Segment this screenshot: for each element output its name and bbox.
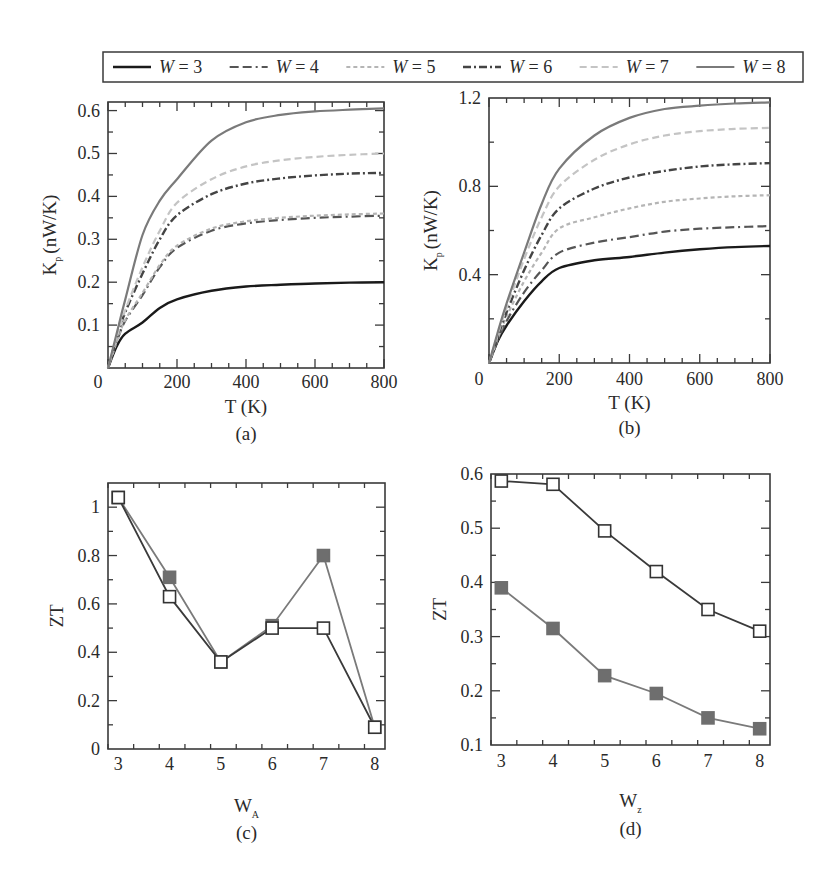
panel-caption: (b): [618, 417, 640, 439]
y-axis-label-main: K: [420, 257, 441, 271]
x-tick-label: 5: [216, 754, 225, 774]
plot-frame: [108, 102, 384, 368]
filled-square-marker: [754, 723, 766, 735]
curve-w=3: [108, 282, 384, 368]
y-tick-label: 0.4: [459, 265, 482, 285]
y-tick-label: 1: [91, 497, 100, 517]
x-tick-label: 0: [94, 372, 103, 392]
y-tick-label: 0.1: [461, 735, 484, 755]
curve-w=7: [489, 128, 770, 363]
y-tick-label: 0.4: [461, 572, 484, 592]
y-tick-label: 0: [91, 739, 100, 759]
filled-square-marker: [702, 712, 714, 724]
y-tick-label: 0.8: [459, 176, 482, 196]
curve-w=8: [489, 102, 770, 363]
open-square-marker: [266, 622, 278, 634]
x-tick-label: 400: [233, 372, 260, 392]
y-tick-label: 0.2: [461, 681, 484, 701]
y-axis-label-main: K: [39, 261, 60, 275]
y-axis-label-unit: (nW/K): [420, 190, 442, 249]
y-tick-label: 0.2: [78, 691, 101, 711]
x-tick-label: 5: [600, 751, 609, 771]
open-square-marker: [702, 604, 714, 616]
x-tick-label: 8: [755, 751, 764, 771]
x-axis-label: WA: [234, 795, 260, 820]
x-tick-label: 3: [497, 751, 506, 771]
y-axis-label-unit: (nW/K): [39, 195, 61, 254]
y-axis-label: ZT: [46, 604, 67, 628]
y-tick-label: 0.6: [78, 594, 101, 614]
y-tick-label: 0.8: [78, 546, 101, 566]
legend-label-value: = 4: [291, 57, 319, 77]
open-square-marker: [112, 492, 124, 504]
panel-caption: (a): [235, 423, 256, 445]
curve-w=8: [108, 108, 384, 368]
y-axis-label: Kp(nW/K): [39, 195, 63, 276]
legend-label: W = 7: [626, 57, 669, 77]
open-square-marker: [317, 622, 329, 634]
panel-caption: (c): [236, 822, 257, 844]
legend-label-value: = 7: [641, 57, 669, 77]
x-axis-label-sub: z: [637, 804, 642, 815]
curve-w=3: [489, 246, 770, 363]
legend-label-value: = 8: [757, 57, 785, 77]
y-tick-label: 0.3: [461, 627, 484, 647]
x-tick-label: 6: [652, 751, 661, 771]
open-square-marker: [495, 475, 507, 487]
open-square-marker: [650, 566, 662, 578]
open-square-marker: [369, 721, 381, 733]
x-tick-label: 4: [165, 754, 174, 774]
y-tick-label: 0.5: [461, 518, 484, 538]
figure: W = 3W = 4W = 5W = 6W = 7W = 8 020040060…: [0, 0, 815, 878]
y-tick-label: 0.3: [78, 229, 101, 249]
panels: 02004006008000.10.20.30.40.50.6T (K)Kp(n…: [39, 88, 784, 844]
filled-square-marker: [599, 670, 611, 682]
curve-w=6: [489, 163, 770, 363]
x-axis-label: T (K): [225, 396, 267, 418]
filled-series-line: [501, 588, 759, 729]
x-axis-label-main: W: [234, 795, 252, 816]
legend-label-value: = 6: [524, 57, 552, 77]
plot-frame: [108, 483, 385, 749]
x-tick-label: 7: [319, 754, 328, 774]
y-tick-label: 0.6: [78, 101, 101, 121]
legend-label: W = 3: [159, 57, 202, 77]
filled-square-marker: [495, 582, 507, 594]
curve-w=6: [108, 173, 384, 368]
x-tick-label: 600: [686, 369, 713, 389]
legend: W = 3W = 4W = 5W = 6W = 7W = 8: [103, 52, 803, 82]
x-tick-label: 8: [370, 754, 379, 774]
x-tick-label: 800: [371, 372, 398, 392]
y-tick-label: 0.5: [78, 143, 101, 163]
y-tick-label: 0.6: [461, 464, 484, 484]
y-axis-label: Kp(nW/K): [420, 190, 444, 271]
x-tick-label: 600: [302, 372, 329, 392]
legend-label-value: = 3: [174, 57, 202, 77]
curve-w=5: [489, 195, 770, 363]
legend-label: W = 6: [509, 57, 552, 77]
open-square-marker: [164, 591, 176, 603]
y-tick-label: 0.1: [78, 315, 101, 335]
x-tick-label: 0: [475, 369, 484, 389]
open-square-marker: [215, 656, 227, 668]
y-tick-label: 0.2: [78, 272, 101, 292]
legend-label: W = 5: [392, 57, 435, 77]
plot-frame: [491, 474, 770, 745]
x-axis-label-main: W: [619, 790, 637, 811]
x-tick-label: 4: [549, 751, 558, 771]
x-tick-label: 200: [164, 372, 191, 392]
y-tick-label: 1.2: [459, 88, 482, 108]
curve-w=4: [108, 216, 384, 368]
chart-panel-c: 34567800.20.40.60.81WAZT(c): [46, 483, 385, 844]
curve-w=5: [108, 214, 384, 369]
filled-square-marker: [164, 571, 176, 583]
x-tick-label: 800: [757, 369, 784, 389]
chart-panel-d: 3456780.10.20.30.40.50.6WzZT(d): [429, 464, 770, 840]
x-tick-label: 6: [268, 754, 277, 774]
x-tick-label: 400: [616, 369, 643, 389]
open-square-marker: [599, 525, 611, 537]
open-square-marker: [547, 478, 559, 490]
y-axis-label-sub: p: [433, 252, 444, 257]
open-square-marker: [754, 625, 766, 637]
y-tick-label: 0.4: [78, 642, 101, 662]
